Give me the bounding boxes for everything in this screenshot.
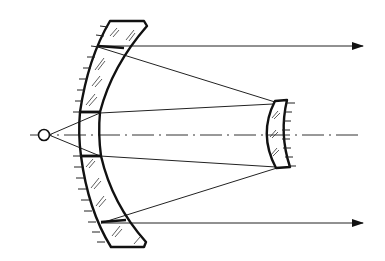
primary-mirror-lower [81,156,146,247]
secondary-mirror [267,100,290,168]
secondary-glass-texture [270,111,280,156]
primary-mirror-hole [79,112,101,156]
optical-diagram [0,0,385,261]
point-source-icon [39,130,50,141]
primary-mirror-upper [80,21,147,112]
